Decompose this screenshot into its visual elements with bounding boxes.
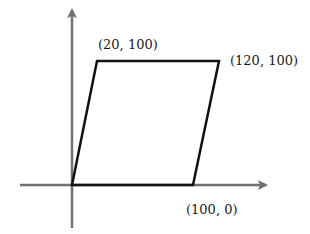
label-top-right-vertex: (120, 100) <box>230 54 298 67</box>
label-top-left-vertex: (20, 100) <box>98 38 158 51</box>
coordinate-diagram <box>0 0 310 234</box>
parallelogram <box>72 61 219 185</box>
label-bottom-right-vertex: (100, 0) <box>186 203 238 216</box>
